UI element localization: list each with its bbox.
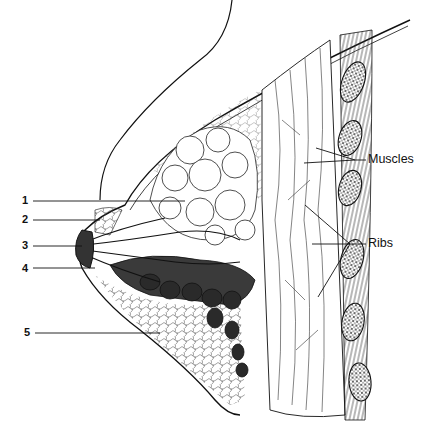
glandular-lobes: [150, 127, 258, 245]
label-ribs: Ribs: [368, 236, 393, 250]
label-4: 4: [22, 262, 28, 274]
label-2: 2: [22, 213, 28, 225]
label-muscles: Muscles: [368, 152, 414, 166]
label-1: 1: [22, 194, 28, 206]
anatomy-illustration: [0, 0, 440, 431]
breast-anatomy-diagram: 1 2 3 4 5 Muscles Ribs: [0, 0, 440, 431]
label-3: 3: [22, 239, 28, 251]
label-5: 5: [24, 326, 30, 338]
nipple: [76, 230, 94, 268]
